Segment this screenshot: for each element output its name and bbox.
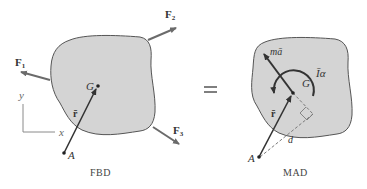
inertial-moment-label: Īα	[315, 67, 326, 79]
rigid-body-shape	[51, 35, 155, 134]
free-body-diagram: F1 F2 F3 y x r̄ G A FBD	[15, 8, 184, 178]
force-f2-label: F2	[165, 8, 176, 22]
fbd-caption: FBD	[90, 167, 111, 178]
coordinate-axes	[23, 104, 55, 132]
position-vector-label: r̄	[271, 108, 276, 119]
force-f2-arrow	[148, 28, 176, 40]
point-a-label: A	[247, 152, 255, 164]
x-axis-label: x	[58, 126, 64, 138]
inertial-force-label: mā	[270, 46, 282, 57]
force-f3-label: F3	[173, 124, 184, 138]
position-vector-label: r̄	[73, 108, 78, 119]
point-a-label: A	[67, 149, 75, 161]
kinetics-diagram: F1 F2 F3 y x r̄ G A FBD mā	[0, 0, 367, 189]
centroid-point	[96, 84, 100, 88]
mad-caption: MAD	[283, 167, 308, 178]
equals-sign	[204, 87, 217, 92]
mass-acceleration-diagram: mā Īα r̄ G A d MAD	[247, 37, 352, 178]
centroid-point	[291, 91, 295, 95]
point-a	[257, 155, 261, 159]
force-f1-label: F1	[15, 56, 26, 70]
y-axis-label: y	[18, 89, 24, 101]
centroid-label: G	[302, 77, 310, 89]
force-f1-arrow	[21, 72, 50, 80]
centroid-label: G	[86, 80, 94, 92]
point-a	[62, 151, 66, 155]
